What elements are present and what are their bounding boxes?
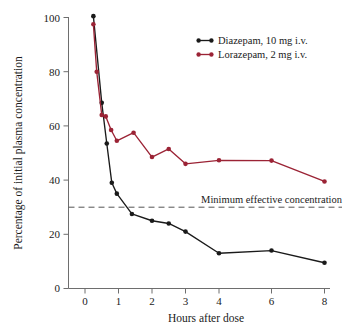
- data-point: [104, 141, 109, 146]
- legend-entry-lorazepam: Lorazepam, 2 mg i.v.: [196, 49, 307, 60]
- legend-entry-diazepam: Diazepam, 10 mg i.v.: [196, 35, 307, 46]
- data-point: [131, 130, 136, 135]
- data-point: [217, 251, 222, 256]
- y-tick-label-60: 60: [49, 120, 61, 132]
- x-tick-label-3: 3: [183, 295, 189, 307]
- legend-marker-lorazepam-left: [196, 52, 200, 56]
- data-point: [269, 158, 274, 163]
- chart-canvas: 0 20 40 60 80 100 0 1 2 3 4 6 8: [0, 0, 348, 330]
- x-tick-label-6: 6: [269, 295, 275, 307]
- data-point: [166, 221, 171, 226]
- pharmacokinetics-chart-figure: 0 20 40 60 80 100 0 1 2 3 4 6 8: [0, 0, 348, 330]
- y-tick-label-40: 40: [49, 174, 61, 186]
- y-tick-label-20: 20: [49, 228, 61, 240]
- y-axis-tick-labels: 0 20 40 60 80 100: [44, 12, 61, 295]
- data-point: [322, 179, 327, 184]
- data-point: [110, 181, 115, 186]
- data-point: [115, 191, 120, 196]
- data-point: [150, 218, 155, 223]
- data-point: [103, 114, 108, 119]
- x-axis-ticks: [85, 289, 325, 294]
- data-point: [217, 158, 222, 163]
- chart-legend: Diazepam, 10 mg i.v. Lorazepam, 2 mg i.v…: [196, 35, 307, 60]
- y-tick-label-80: 80: [49, 66, 61, 78]
- x-tick-label-0: 0: [82, 295, 88, 307]
- series-lorazepam: [91, 22, 327, 184]
- data-point: [166, 147, 171, 152]
- data-point: [115, 139, 120, 144]
- legend-label-lorazepam: Lorazepam, 2 mg i.v.: [218, 49, 307, 60]
- x-tick-label-2: 2: [149, 295, 155, 307]
- y-axis-title: Percentage of initial plasma concentrati…: [12, 56, 25, 250]
- legend-marker-lorazepam-right: [209, 52, 213, 56]
- data-point: [183, 229, 188, 234]
- x-tick-label-4: 4: [216, 295, 222, 307]
- data-point: [183, 162, 188, 167]
- x-axis-tick-labels: 0 1 2 3 4 6 8: [82, 295, 328, 307]
- data-point: [150, 155, 155, 160]
- data-point: [269, 248, 274, 253]
- x-tick-label-8: 8: [322, 295, 328, 307]
- x-tick-label-1: 1: [116, 295, 122, 307]
- minimum-effective-concentration-label: Minimum effective concentration: [201, 194, 343, 205]
- series-line: [93, 24, 324, 181]
- data-point: [91, 22, 96, 27]
- x-axis-title: Hours after dose: [168, 312, 244, 324]
- legend-label-diazepam: Diazepam, 10 mg i.v.: [218, 35, 308, 46]
- data-point: [99, 113, 104, 118]
- data-point: [109, 128, 114, 133]
- data-point: [322, 260, 327, 265]
- y-axis-ticks: [64, 18, 69, 289]
- y-tick-label-100: 100: [44, 12, 61, 24]
- legend-marker-diazepam-right: [209, 38, 213, 42]
- data-point: [130, 212, 135, 217]
- data-point: [94, 69, 99, 74]
- data-point: [91, 14, 96, 19]
- y-tick-label-0: 0: [55, 282, 61, 294]
- legend-marker-diazepam-left: [196, 38, 200, 42]
